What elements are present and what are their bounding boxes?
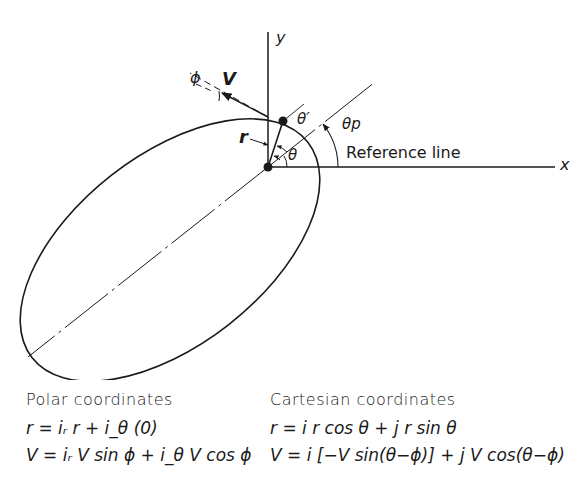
theta-prime-label: θ′ [297, 112, 310, 127]
apse-line-lower [28, 167, 268, 357]
polar-coordinates-block: Polar coordinates r = iᵣ r + i_θ (0) V =… [26, 390, 252, 472]
phi-arc [219, 91, 220, 101]
radius-label: r [239, 128, 248, 146]
polar-v-equation: V = iᵣ V sin ϕ + i_θ V cos ϕ [26, 445, 252, 465]
velocity-vector [222, 93, 268, 117]
reference-line-label: Reference line [346, 145, 461, 161]
x-axis-label: x [560, 157, 569, 173]
orbit-diagram [0, 0, 573, 380]
theta-p-label: θp [342, 117, 361, 132]
r-pointer [250, 139, 268, 145]
radius-vector [268, 121, 283, 167]
cartesian-title: Cartesian coordinates [270, 390, 565, 409]
cartesian-v-equation: V = i [−V sin(θ−ϕ)] + j V cos(θ−ϕ) [270, 445, 565, 465]
phi-label: ϕ [190, 70, 201, 86]
focus-point [264, 163, 273, 172]
theta-prime-arc [277, 146, 287, 152]
theta-label: θ [288, 148, 297, 163]
polar-title: Polar coordinates [26, 390, 252, 409]
velocity-label: V [222, 70, 236, 88]
theta-arc [284, 156, 287, 167]
cartesian-r-equation: r = i r cos θ + j r sin θ [270, 418, 565, 438]
y-axis-label: y [276, 30, 285, 46]
cartesian-coordinates-block: Cartesian coordinates r = i r cos θ + j … [270, 390, 565, 472]
orbit-ellipse [0, 67, 366, 380]
theta-p-arc [323, 124, 338, 167]
orbit-point [279, 117, 288, 126]
polar-r-equation: r = iᵣ r + i_θ (0) [26, 418, 252, 438]
